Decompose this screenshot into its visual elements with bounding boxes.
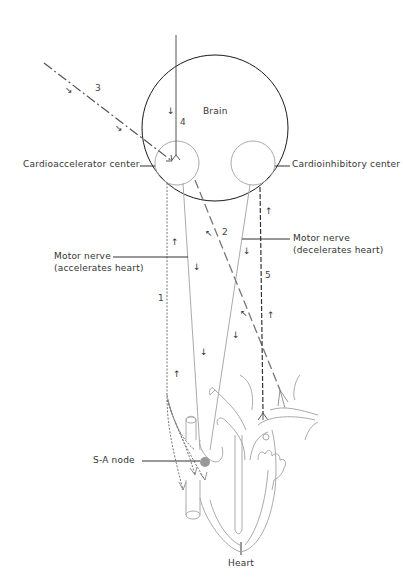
arrow-pathway-4: ↓ [167, 106, 175, 116]
sa-node-dot [200, 457, 210, 467]
motor-decel-label-1: Motor nerve [293, 233, 350, 243]
brain-outline [142, 55, 288, 201]
pathway-3-line [44, 63, 172, 161]
sa-node-label: S-A node [93, 455, 135, 465]
pathway-5-line [260, 187, 263, 413]
arrow-motor-accel-a: ↓ [193, 262, 201, 272]
pathway-number-1: 1 [158, 293, 164, 303]
arrow-pathway-3b: ↘ [115, 123, 123, 133]
arrow-pathway-1a: ↑ [171, 237, 179, 247]
arrow-pathway-2a: ↖ [205, 228, 213, 238]
arrow-pathway-5b: ↑ [267, 310, 275, 320]
pathway-1-endforks [179, 467, 207, 490]
heart-label: Heart [228, 558, 254, 568]
diagram-canvas [0, 0, 403, 580]
pathway-2-endforks [278, 390, 288, 408]
motor-accel-label-1: Motor nerve [54, 251, 111, 261]
motor-decel-label-2: (decelerates heart) [293, 245, 383, 255]
arrow-pathway-3a: ↘ [65, 85, 73, 95]
cardioinhibitory-label: Cardioinhibitory center [292, 159, 400, 169]
arrow-motor-accel-b: ↓ [200, 347, 208, 357]
cardioinhibitory-center-circle [231, 141, 275, 185]
arrow-pathway-2b: ↖ [240, 308, 248, 318]
pathway-1-line [167, 183, 183, 490]
arrow-motor-decel-a: ↓ [243, 246, 251, 256]
motor-accel-label-2: (accelerates heart) [54, 263, 144, 273]
cardioaccelerator-label: Cardioaccelerator center [23, 159, 140, 169]
arrow-motor-decel-b: ↓ [232, 330, 240, 340]
arrow-pathway-5a: ↑ [265, 206, 273, 216]
pathway-4-endfork [172, 155, 180, 160]
pathway-number-5: 5 [265, 270, 271, 280]
cardioaccelerator-center-circle [155, 141, 199, 185]
brain-label: Brain [203, 106, 228, 116]
pathway-5-endfork [258, 413, 268, 420]
pathway-number-3: 3 [95, 83, 101, 93]
motor-nerve-accelerates [183, 183, 200, 450]
arrow-pathway-1b: ↑ [173, 369, 181, 379]
pathway-number-2: 2 [222, 227, 228, 237]
pathway-number-4: 4 [180, 117, 186, 127]
